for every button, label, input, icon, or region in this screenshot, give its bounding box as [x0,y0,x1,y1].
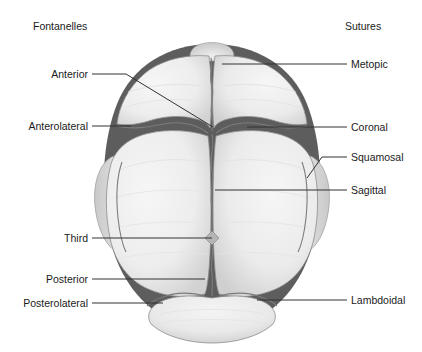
sutures-heading: Sutures [345,21,381,32]
fontanelles-heading: Fontanelles [33,21,87,32]
figure-canvas: Fontanelles Sutures Anterior Anterolater… [0,0,422,352]
label-metopic: Metopic [351,59,388,70]
label-squamosal: Squamosal [351,152,404,163]
label-posterolateral: Posterolateral [23,298,88,309]
label-lambdoidal: Lambdoidal [351,295,405,306]
label-coronal: Coronal [351,122,388,133]
label-third: Third [64,233,88,244]
label-posterior: Posterior [46,274,88,285]
frontal-bone-right [213,56,307,128]
occipital-bone [149,296,276,343]
label-sagittal: Sagittal [351,185,386,196]
label-anterolateral: Anterolateral [28,121,88,132]
label-anterior: Anterior [51,69,88,80]
